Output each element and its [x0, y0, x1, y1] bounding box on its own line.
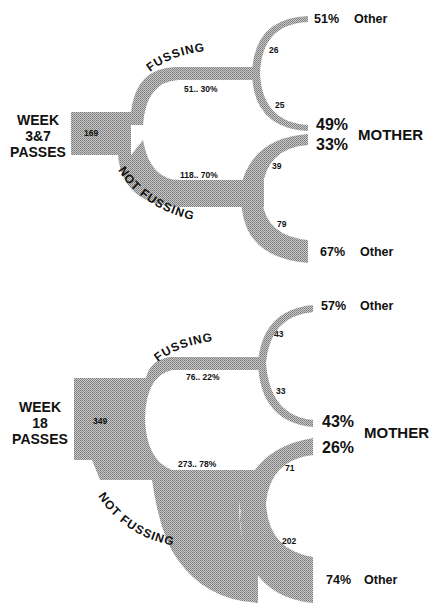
fussing-other-count-1: 26: [269, 46, 278, 55]
fussing-branch-band: [131, 67, 258, 125]
fussing-other-pct-2: 57%: [321, 300, 346, 313]
mother-label-2: MOTHER: [364, 425, 429, 440]
fussing-count-2: 76.. 22%: [186, 373, 220, 382]
week-label-line: WEEK: [6, 112, 70, 128]
not-fussing-other-name-1: Other: [360, 246, 393, 259]
week-label-line: PASSES: [8, 431, 72, 447]
not-fussing-other-pct-1: 67%: [320, 246, 345, 259]
not-fussing-count-1: 118.. 70%: [180, 171, 218, 180]
fussing-mother-pct-1: 49%: [316, 117, 348, 133]
week-label-1: WEEK 3&7 PASSES: [6, 112, 70, 160]
not-fussing-other-pct-2: 74%: [326, 574, 351, 587]
not-fussing-other-count-2: 202: [282, 537, 296, 546]
fussing-other-name-1: Other: [354, 13, 387, 26]
not-fussing-other-count-1: 79: [277, 220, 286, 229]
week-label-2: WEEK 18 PASSES: [8, 399, 72, 447]
total-count-2: 349: [93, 417, 107, 426]
not-fussing-mother-pct-1: 33%: [316, 137, 348, 153]
not-fussing-connector: [240, 470, 260, 510]
source-block-169: [71, 112, 131, 155]
not-fussing-mother-count-2: 71: [285, 464, 294, 473]
not-fussing-connector: [246, 180, 264, 207]
fussing-outcome-ring: [252, 16, 308, 131]
fussing-connector: [252, 357, 264, 370]
not-fussing-mother-pct-2: 26%: [322, 440, 354, 456]
week-label-line: 18: [8, 415, 72, 431]
not-fussing-mother-count-1: 39: [272, 162, 281, 171]
fussing-mother-count-2: 33: [276, 387, 285, 396]
fussing-other-count-2: 43: [274, 330, 283, 339]
total-count-1: 169: [84, 129, 98, 138]
fussing-mother-pct-2: 43%: [322, 414, 354, 430]
week-label-line: WEEK: [8, 399, 72, 415]
mother-label-1: MOTHER: [358, 127, 423, 142]
panel-week-18: [74, 305, 313, 603]
fussing-other-pct-1: 51%: [314, 13, 339, 26]
not-fussing-count-2: 273.. 78%: [178, 460, 216, 469]
source-block-349: [74, 357, 258, 603]
fussing-count-1: 51.. 30%: [184, 85, 218, 94]
week-label-line: PASSES: [6, 144, 70, 160]
fussing-other-name-2: Other: [360, 300, 393, 313]
week-label-line: 3&7: [6, 128, 70, 144]
fussing-outcome-ring: [258, 305, 313, 427]
not-fussing-other-name-2: Other: [364, 574, 397, 587]
fussing-mother-count-1: 25: [275, 101, 284, 110]
